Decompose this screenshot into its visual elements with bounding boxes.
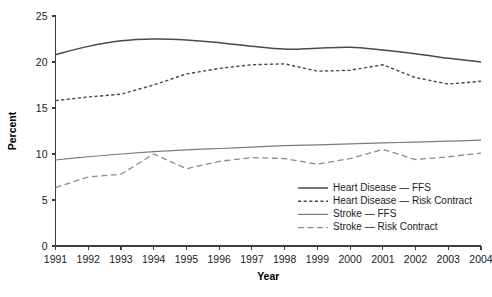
- x-axis-title: Year: [257, 270, 279, 282]
- x-tick-label: 2003: [437, 253, 461, 265]
- x-tick-label: 1995: [175, 253, 199, 265]
- x-tick-label: 2000: [338, 253, 362, 265]
- x-tick-label: 1992: [77, 253, 101, 265]
- x-tick-label: 2001: [371, 253, 395, 265]
- x-tick-label: 2002: [404, 253, 428, 265]
- x-tick-label: 1994: [142, 253, 166, 265]
- y-axis-ticks: 0510152025: [36, 10, 56, 252]
- chart-legend: Heart Disease — FFSHeart Disease — Risk …: [298, 182, 472, 233]
- y-axis-group: 0510152025 Percent: [6, 10, 56, 252]
- y-tick-label: 15: [36, 102, 48, 114]
- y-axis-title: Percent: [6, 111, 18, 150]
- x-tick-label: 1993: [109, 253, 133, 265]
- x-tick-label: 1999: [306, 253, 330, 265]
- x-tick-label: 1997: [240, 253, 264, 265]
- x-axis-ticks: 1991199219931994199519961997199819992000…: [44, 246, 492, 265]
- y-tick-label: 0: [42, 240, 48, 252]
- y-tick-label: 20: [36, 56, 48, 68]
- legend-label-1: Heart Disease — Risk Contract: [333, 195, 472, 206]
- x-tick-label: 1998: [273, 253, 297, 265]
- series-line-0: [56, 39, 482, 62]
- legend-label-2: Stroke — FFS: [333, 208, 397, 219]
- chart-figure: 0510152025 Percent 199119921993199419951…: [0, 0, 492, 297]
- legend-label-0: Heart Disease — FFS: [333, 182, 431, 193]
- line-chart-plot: 0510152025 Percent 199119921993199419951…: [0, 0, 492, 297]
- legend-label-3: Stroke — Risk Contract: [333, 221, 438, 232]
- x-axis-group: 1991199219931994199519961997199819992000…: [44, 246, 492, 282]
- y-tick-label: 10: [36, 148, 48, 160]
- x-tick-label: 1991: [44, 253, 68, 265]
- x-tick-label: 1996: [207, 253, 231, 265]
- series-line-1: [56, 64, 482, 101]
- data-series-group: [56, 39, 482, 188]
- y-tick-label: 25: [36, 10, 48, 22]
- series-line-2: [56, 140, 482, 160]
- y-tick-label: 5: [42, 194, 48, 206]
- x-tick-label: 2004: [469, 253, 492, 265]
